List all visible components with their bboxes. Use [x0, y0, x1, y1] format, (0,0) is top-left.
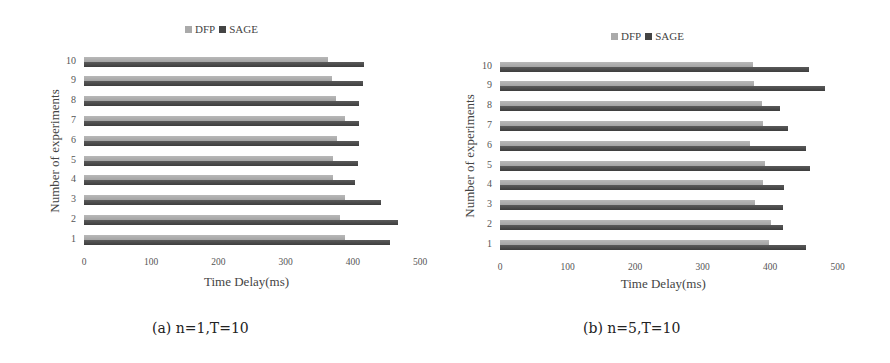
bar-sage-7 [500, 126, 788, 131]
legend-swatch-icon [611, 33, 618, 40]
x-tick-label: 400 [755, 262, 785, 272]
y-tick-label: 9 [478, 79, 492, 90]
caption-a: (a) n=1,T=10 [152, 320, 249, 336]
y-tick-label: 4 [478, 178, 492, 189]
x-tick-label: 100 [553, 262, 583, 272]
legend: DFPSAGE [611, 30, 684, 42]
y-tick-label: 2 [478, 218, 492, 229]
x-tick-label: 200 [620, 262, 650, 272]
y-tick-label: 7 [478, 119, 492, 130]
y-axis-label: Number of experiments [462, 86, 478, 226]
x-tick-label: 0 [485, 262, 515, 272]
x-tick-label: 500 [823, 262, 853, 272]
legend-swatch-icon [645, 33, 652, 40]
y-tick-label: 8 [478, 99, 492, 110]
y-tick-label: 10 [478, 60, 492, 71]
bar-sage-5 [500, 166, 810, 171]
y-tick-label: 6 [478, 139, 492, 150]
bar-sage-3 [500, 205, 783, 210]
bar-sage-6 [500, 146, 806, 151]
legend-item-dfp: DFP [611, 30, 641, 42]
bar-sage-10 [500, 67, 809, 72]
chart-panel-b: DFPSAGENumber of experiments123456789100… [0, 0, 890, 300]
x-tick-label: 300 [688, 262, 718, 272]
y-tick-label: 1 [478, 238, 492, 249]
bar-sage-2 [500, 225, 783, 230]
y-tick-label: 5 [478, 159, 492, 170]
legend-label: SAGE [655, 30, 684, 42]
legend-item-sage: SAGE [645, 30, 684, 42]
y-tick-label: 3 [478, 198, 492, 209]
x-axis-label: Time Delay(ms) [621, 276, 706, 292]
bar-sage-9 [500, 86, 825, 91]
legend-label: DFP [621, 30, 641, 42]
bar-sage-8 [500, 106, 780, 111]
bar-sage-4 [500, 185, 784, 190]
caption-b: (b) n=5,T=10 [583, 320, 680, 336]
bar-sage-1 [500, 245, 806, 250]
